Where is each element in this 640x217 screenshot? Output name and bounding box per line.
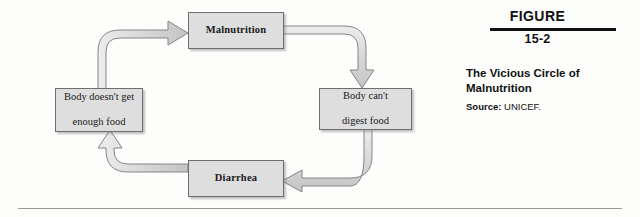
page-bottom-rule — [18, 208, 622, 209]
node-diarrhea-label: Diarrhea — [215, 172, 257, 185]
line-2: enough food — [64, 116, 134, 129]
node-body-cant-digest-food-label: Body can't digest food — [342, 90, 389, 128]
line-1: Body can't — [342, 90, 389, 103]
cycle-diagram: Malnutrition Body can't digest food Diar… — [0, 0, 440, 205]
figure-page: Malnutrition Body can't digest food Diar… — [0, 0, 640, 217]
arrow-malnutrition-to-nodigest — [282, 26, 374, 88]
node-body-doesnt-get-enough-food[interactable]: Body doesn't get enough food — [55, 88, 143, 132]
figure-number: 15-2 — [455, 32, 620, 46]
line-1: Body doesn't get — [64, 91, 134, 104]
node-body-cant-digest-food[interactable]: Body can't digest food — [319, 88, 412, 130]
arrow-nodigest-to-diarrhea — [282, 128, 372, 192]
arrow-nofood-to-malnutrition — [98, 21, 188, 92]
figure-source: Source: UNICEF. — [466, 101, 636, 112]
node-body-doesnt-get-enough-food-label: Body doesn't get enough food — [64, 91, 134, 129]
figure-source-value: UNICEF. — [504, 101, 541, 112]
node-malnutrition[interactable]: Malnutrition — [188, 12, 284, 49]
node-diarrhea[interactable]: Diarrhea — [188, 160, 284, 197]
figure-label: FIGURE — [455, 8, 620, 24]
figure-caption-panel: FIGURE 15-2 The Vicious Circle of Malnut… — [455, 0, 640, 205]
line-2: digest food — [342, 115, 389, 128]
figure-source-label: Source: — [466, 101, 501, 112]
figure-divider-rule — [490, 28, 616, 31]
figure-title: The Vicious Circle of Malnutrition — [466, 66, 636, 96]
node-malnutrition-label: Malnutrition — [206, 24, 267, 37]
arrow-diarrhea-to-nofood — [98, 130, 188, 172]
